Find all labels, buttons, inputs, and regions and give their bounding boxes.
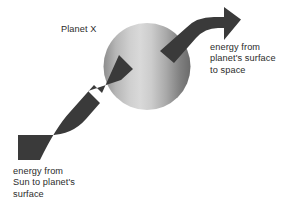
energy-out-label: energy from planet's surface to space xyxy=(210,42,276,76)
energy-in-arrow xyxy=(18,55,133,160)
planet-label: Planet X xyxy=(61,24,97,35)
energy-balance-diagram: Planet X energy from Sun to planet's sur… xyxy=(0,0,307,211)
energy-in-label: energy from Sun to planet's surface xyxy=(13,166,75,200)
